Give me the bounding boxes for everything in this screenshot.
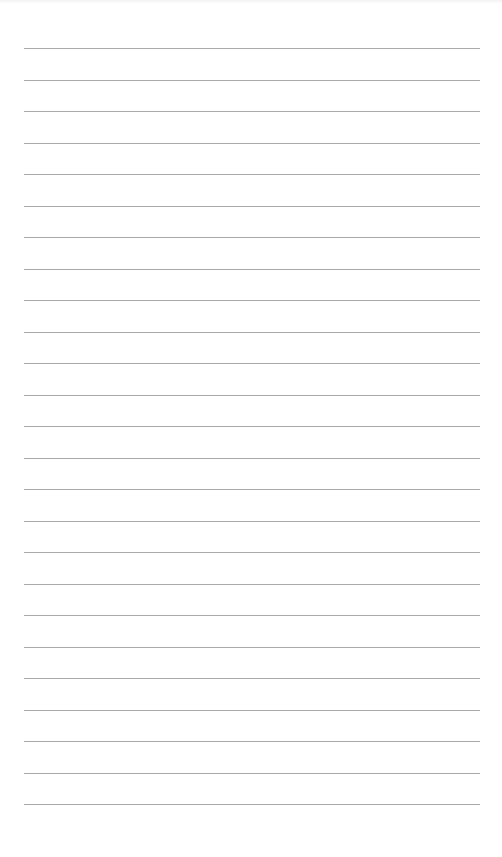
ruled-line [24, 269, 480, 270]
ruled-line [24, 206, 480, 207]
ruled-line [24, 111, 480, 112]
top-edge-fringe [0, 0, 502, 4]
ruled-line [24, 300, 480, 301]
ruled-line [24, 458, 480, 459]
ruled-line [24, 584, 480, 585]
ruled-line [24, 552, 480, 553]
ruled-line [24, 80, 480, 81]
ruled-line [24, 615, 480, 616]
ruled-line [24, 174, 480, 175]
ruled-line [24, 678, 480, 679]
ruled-line [24, 332, 480, 333]
lined-paper-page [0, 0, 502, 857]
ruled-line [24, 710, 480, 711]
ruled-line [24, 489, 480, 490]
ruled-line [24, 143, 480, 144]
ruled-line [24, 521, 480, 522]
ruled-line [24, 237, 480, 238]
ruled-line [24, 426, 480, 427]
ruled-line [24, 773, 480, 774]
ruled-line [24, 804, 480, 805]
ruled-line [24, 647, 480, 648]
ruled-line [24, 741, 480, 742]
ruled-line [24, 363, 480, 364]
ruled-line [24, 48, 480, 49]
ruled-line [24, 395, 480, 396]
